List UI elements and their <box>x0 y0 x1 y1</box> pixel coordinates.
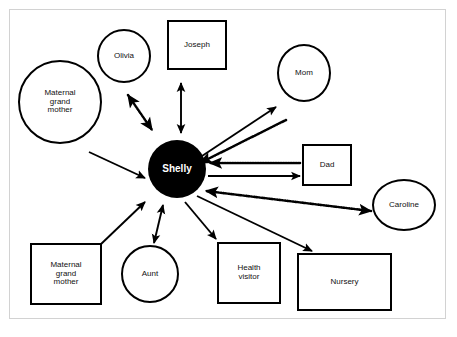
node-shelly[interactable]: Shelly <box>148 140 206 198</box>
node-label-shelly: Shelly <box>160 164 193 175</box>
node-label-mom: Mom <box>293 69 315 78</box>
node-label-nursery: Nursery <box>328 278 360 287</box>
edge-caroline-shelly <box>206 191 371 211</box>
edge-shelly-healthvisitor <box>185 202 216 239</box>
node-caroline[interactable]: Caroline <box>372 179 436 231</box>
node-nursery[interactable]: Nursery <box>297 253 392 311</box>
node-label-dad: Dad <box>318 161 337 170</box>
node-label-joseph: Joseph <box>182 41 212 50</box>
node-olivia[interactable]: Olivia <box>97 29 151 83</box>
node-maternal-grandmother-bottom[interactable]: Maternal grand mother <box>30 243 102 305</box>
node-maternal-grandmother-top[interactable]: Maternal grand mother <box>18 60 102 144</box>
node-label-maternal-grandmother-top: Maternal grand mother <box>42 89 77 115</box>
edge-grandmother-shelly <box>89 152 145 178</box>
node-mom[interactable]: Mom <box>277 44 331 102</box>
node-dad[interactable]: Dad <box>302 144 352 186</box>
edge-aunt-shelly <box>154 205 163 243</box>
node-label-olivia: Olivia <box>112 52 136 61</box>
node-label-health-visitor: Health visitor <box>235 264 262 281</box>
node-joseph[interactable]: Joseph <box>167 20 227 70</box>
node-label-maternal-grandmother-bottom: Maternal grand mother <box>48 261 83 287</box>
node-label-caroline: Caroline <box>387 201 421 210</box>
edge-shelly-mom <box>199 107 276 158</box>
node-label-aunt: Aunt <box>140 270 160 279</box>
edge-olivia-shelly <box>128 95 152 130</box>
edge-mom-shelly <box>200 120 286 163</box>
edge-grandmotherbox-shelly <box>100 202 145 245</box>
ecomap-diagram: ShellyMaternal grand motherOliviaJosephM… <box>0 0 457 337</box>
node-health-visitor[interactable]: Health visitor <box>217 242 281 304</box>
node-aunt[interactable]: Aunt <box>121 245 179 303</box>
